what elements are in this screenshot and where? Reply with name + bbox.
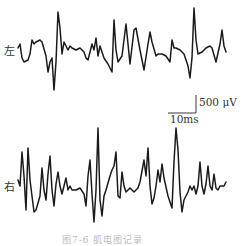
time-scale-label: 10ms [170, 114, 199, 125]
left-channel-trace [18, 8, 226, 90]
scale-bar [168, 95, 196, 113]
right-channel-trace [18, 128, 226, 222]
right-channel-label: 右 [4, 182, 15, 193]
figure-caption: 图7-6 肌电图记录 [62, 233, 143, 246]
amplitude-scale-label: 500 μV [199, 97, 237, 108]
left-channel-label: 左 [4, 46, 15, 57]
